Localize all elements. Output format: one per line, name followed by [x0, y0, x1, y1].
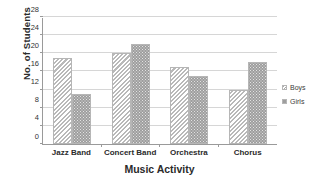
x-axis-category-label: Concert Band: [101, 148, 160, 157]
bar-boys-concert-band[interactable]: [112, 53, 131, 144]
y-axis-tick-label: 12: [31, 77, 39, 86]
y-axis-tick-label: 8: [35, 95, 39, 104]
x-axis-category-label: Chorus: [218, 148, 277, 157]
y-axis-tick-label: 28: [31, 4, 39, 13]
x-axis-title: Music Activity: [42, 163, 277, 175]
y-axis-tick-mark: [40, 16, 43, 17]
x-axis-category-label: Orchestra: [160, 148, 219, 157]
legend-label: Boys: [290, 84, 306, 91]
bar-chart: No. of Students 0481216202428 Jazz BandC…: [0, 0, 316, 191]
bar-girls-concert-band[interactable]: [131, 44, 150, 144]
bar-group: [160, 18, 219, 144]
gridline: [43, 16, 277, 17]
y-axis-tick-label: 24: [31, 22, 39, 31]
x-axis-tick-mark: [218, 144, 219, 147]
y-axis-tick-label: 20: [31, 40, 39, 49]
legend-label: Girls: [290, 98, 304, 105]
bar-groups: [43, 18, 277, 144]
bar-girls-orchestra[interactable]: [189, 76, 208, 144]
bar-group: [43, 18, 102, 144]
y-axis-tick-label: 4: [35, 113, 39, 122]
legend-swatch-icon: [282, 99, 287, 104]
legend: BoysGirls: [282, 84, 306, 105]
x-axis-tick-labels: Jazz BandConcert BandOrchestraChorus: [42, 148, 277, 157]
bar-girls-chorus[interactable]: [248, 62, 267, 144]
x-axis-tick-mark: [101, 144, 102, 147]
x-axis-category-label: Jazz Band: [42, 148, 101, 157]
bar-boys-chorus[interactable]: [229, 90, 248, 144]
bar-girls-jazz-band[interactable]: [72, 94, 91, 144]
x-axis-tick-mark: [159, 144, 160, 147]
y-axis-tick-label: 16: [31, 58, 39, 67]
bar-boys-orchestra[interactable]: [170, 67, 189, 144]
plot-area: 0481216202428: [42, 18, 277, 145]
bar-boys-jazz-band[interactable]: [53, 58, 72, 144]
bar-group: [102, 18, 161, 144]
bar-group: [219, 18, 278, 144]
legend-swatch-icon: [282, 85, 287, 90]
legend-item-girls[interactable]: Girls: [282, 98, 306, 105]
legend-item-boys[interactable]: Boys: [282, 84, 306, 91]
y-axis-tick-label: 0: [35, 131, 39, 140]
